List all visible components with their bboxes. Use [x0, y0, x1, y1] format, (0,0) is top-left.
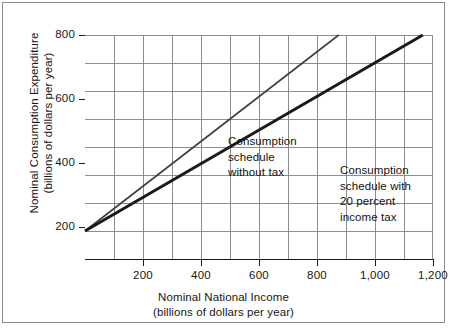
x-tick-mark-1200 [433, 260, 434, 266]
x-tick-label-600: 600 [249, 269, 269, 281]
x-tick-mark-600 [259, 260, 260, 266]
x-tick-label-800: 800 [307, 269, 327, 281]
annotation-with-tax-line2: schedule with [340, 180, 411, 192]
x-tick-label-1200: 1,200 [418, 269, 448, 281]
y-tick-label-400: 400 [3, 156, 75, 168]
x-tick-label-200: 200 [133, 269, 153, 281]
figure-frame: Nominal Consumption Expenditure (billion… [2, 2, 445, 323]
series-line-without-tax [85, 35, 339, 231]
annotation-with-tax-line1: Consumption [340, 164, 409, 176]
x-tick-mark-400 [201, 260, 202, 266]
annotation-with-tax-line4: income tax [340, 211, 397, 223]
x-axis-title-line2: (billions of dollars per year) [3, 305, 444, 320]
y-tick-label-800: 800 [3, 28, 75, 40]
annotation-with-tax: Consumption schedule with 20 percent inc… [340, 163, 411, 225]
annotation-without-tax: Consumption schedule without tax [228, 134, 297, 181]
y-tick-label-600: 600 [3, 92, 75, 104]
annotation-with-tax-line3: 20 percent [340, 195, 395, 207]
x-tick-mark-200 [143, 260, 144, 266]
x-axis-title-line1: Nominal National Income [158, 291, 289, 303]
x-tick-mark-1000 [375, 260, 376, 266]
annotation-without-tax-line1: Consumption [228, 135, 297, 147]
annotation-without-tax-line2: schedule [228, 151, 275, 163]
x-tick-label-400: 400 [191, 269, 211, 281]
x-tick-mark-800 [317, 260, 318, 266]
figure-container: Nominal Consumption Expenditure (billion… [0, 0, 462, 333]
x-axis-title: Nominal National Income (billions of dol… [3, 290, 444, 320]
plot-area: Consumption schedule without tax Consump… [85, 35, 433, 259]
y-tick-label-200: 200 [3, 220, 75, 232]
y-axis-title-line1: Nominal Consumption Expenditure [28, 33, 40, 214]
x-tick-label-1000: 1,000 [360, 269, 390, 281]
annotation-without-tax-line3: without tax [228, 166, 284, 178]
